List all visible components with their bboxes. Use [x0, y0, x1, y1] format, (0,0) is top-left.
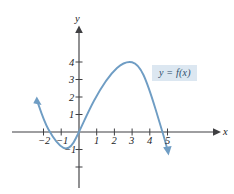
graph-figure: −2 −1 1 2 3 4 5 1 2 3 4 −1 y x y = f(x) [0, 0, 234, 194]
y-tick-label-1: 1 [69, 110, 74, 121]
y-tick-label--1: −1 [64, 145, 76, 156]
x-tick-label--2: −2 [38, 136, 50, 147]
y-axis-arrowhead [75, 26, 83, 34]
x-tick-label-4: 4 [147, 136, 152, 147]
y-tick-label-3: 3 [69, 75, 74, 86]
curve-right-arrowhead [163, 146, 172, 156]
x-axis-label: x [223, 127, 228, 138]
y-tick-label-4: 4 [69, 58, 74, 69]
y-axis-label: y [75, 14, 80, 25]
x-tick-label-2: 2 [112, 136, 117, 147]
x-axis-arrowhead [213, 128, 221, 136]
y-tick-label-2: 2 [69, 93, 74, 104]
x-tick-label-1: 1 [94, 136, 99, 147]
x-tick-label-5: 5 [165, 136, 170, 147]
x-tick-label-3: 3 [129, 136, 134, 147]
y-axis [75, 26, 83, 189]
curve-left-arrowhead [33, 97, 41, 106]
curve-equation-label: y = f(x) [152, 65, 197, 81]
plot-canvas [0, 0, 234, 194]
